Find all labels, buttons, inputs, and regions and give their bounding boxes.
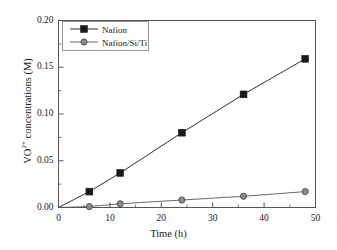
x-tick-label: 20 [148, 213, 174, 223]
y-axis-label-container: VO2+ concentrations (M) [20, 21, 36, 201]
x-tick-label: 10 [97, 213, 123, 223]
data-point-circle [86, 203, 92, 209]
x-tick-label: 40 [251, 213, 277, 223]
x-tick-label: 50 [303, 213, 329, 223]
x-tick-label: 30 [200, 213, 226, 223]
legend-marker-square [81, 26, 88, 33]
y-axis-label: VO2+ concentrations (M) [20, 21, 33, 201]
data-point-circle [302, 189, 308, 195]
y-axis-label-superscript: 2+ [20, 141, 28, 148]
data-point-square [240, 91, 247, 98]
data-point-circle [117, 201, 123, 207]
data-point-square [178, 129, 185, 136]
y-axis-label-rest: concentrations (M) [22, 58, 33, 141]
x-tick-label: 0 [46, 213, 72, 223]
data-point-square [86, 188, 93, 195]
x-axis-label: Time (h) [0, 228, 337, 239]
data-point-circle [240, 193, 246, 199]
y-tick-label: 0.00 [20, 202, 54, 212]
legend-marker-circle [81, 39, 87, 45]
legend-entry-nafion-si-ti: Nafion/Si/Ti [102, 38, 147, 48]
data-point-square [302, 55, 309, 62]
y-axis-label-base: VO [22, 149, 33, 164]
chart-figure: Nafion Nafion/Si/Ti 0.000.050.100.150.20… [0, 0, 337, 250]
data-point-square [117, 170, 124, 177]
legend-entry-nafion: Nafion [102, 25, 127, 35]
data-point-circle [179, 197, 185, 203]
